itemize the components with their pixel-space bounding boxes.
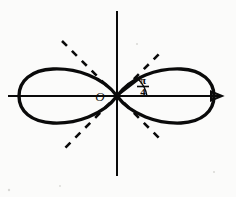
figure-canvas: O π 4 xyxy=(0,0,236,197)
angle-label-denominator: 4 xyxy=(140,86,146,98)
paper-noise xyxy=(8,43,215,191)
angle-label-numerator: π xyxy=(140,74,146,86)
origin-label: O xyxy=(95,89,105,104)
lemniscate-figure: O π 4 xyxy=(0,0,236,197)
